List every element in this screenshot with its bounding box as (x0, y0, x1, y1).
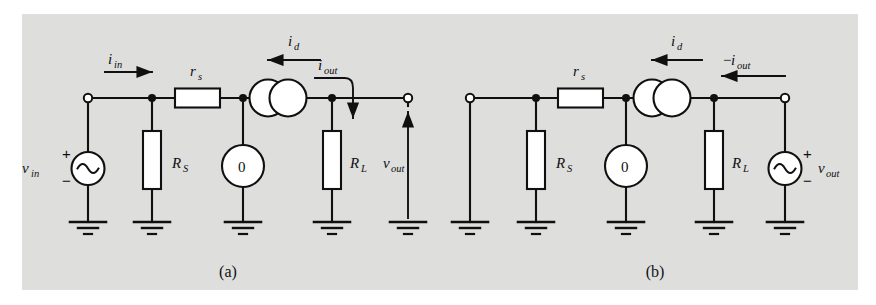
id-current-source-a (250, 80, 307, 117)
RS-sub: S (567, 163, 573, 174)
output-terminal-b (781, 94, 789, 102)
RL-base: R (349, 155, 359, 171)
RS-sub: S (183, 163, 189, 174)
RL-sub: L (360, 163, 367, 174)
rs-sub: s (581, 71, 585, 82)
RL-resistor-a (323, 131, 341, 189)
RL-sub: L (742, 163, 749, 174)
circuit-b-ground-5 (767, 222, 803, 234)
caption-b: (b) (646, 263, 665, 281)
node-dot (532, 94, 540, 102)
zero-source-value-b: 0 (621, 159, 629, 175)
label-r-s-a: r s (190, 63, 202, 82)
vout-plus-sign-b: + (803, 145, 812, 162)
label-v-in-a: v in (22, 160, 39, 179)
node-dot (239, 94, 247, 102)
id-base: i (288, 33, 292, 49)
vout-sub: out (826, 168, 841, 179)
label-i-in-a: i in (108, 51, 122, 70)
label-v-out-b: v out (818, 160, 841, 179)
node-dot (622, 94, 630, 102)
id-current-source-b (634, 80, 691, 117)
circuit-b-ground-4 (696, 222, 732, 234)
iout-base: i (731, 52, 735, 68)
node-dot (328, 94, 336, 102)
circuit-b-ground-3 (608, 222, 644, 234)
circuit-a-ground-2 (134, 222, 170, 234)
v-in-base: v (22, 160, 29, 176)
RL-resistor-b (705, 131, 723, 189)
circuit-a-ground-3 (225, 222, 261, 234)
circuit-a-ground-5 (390, 222, 426, 234)
vin-minus-sign-a: − (62, 172, 71, 189)
label-r-s-b: r s (573, 63, 585, 82)
label-i-out-a: i out (318, 57, 339, 76)
RS-base: R (171, 155, 181, 171)
RS-resistor-b (527, 131, 545, 189)
RL-base: R (731, 155, 741, 171)
RS-base: R (555, 155, 565, 171)
label-R-S-a: R S (171, 155, 189, 174)
id-base: i (671, 33, 675, 49)
rs-base: r (190, 63, 196, 79)
vout-base: v (818, 160, 825, 176)
figure-container: v in + − i in r s R S 0 i d (0, 0, 876, 305)
iout-sub: out (324, 65, 339, 76)
id-sub: d (294, 41, 300, 52)
label-i-d-b: i d (671, 33, 683, 52)
circuit-drawing-layer: v in + − i in r s R S 0 i d (0, 0, 876, 305)
circuit-b-group (452, 60, 803, 234)
iout-sub: out (737, 60, 752, 71)
vout-base: v (383, 155, 390, 171)
caption-a: (a) (219, 263, 237, 281)
circuit-a-group (70, 60, 426, 234)
circuit-b-ground-1 (452, 222, 488, 234)
label-v-out-a: v out (383, 155, 406, 174)
i-in-sub: in (114, 59, 122, 70)
input-terminal-b (466, 94, 474, 102)
vout-source-b (769, 152, 802, 185)
rs-base: r (573, 63, 579, 79)
node-dot (710, 94, 718, 102)
rs-resistor-a (175, 89, 220, 108)
vout-sub: out (391, 163, 406, 174)
v-in-sub: in (31, 168, 39, 179)
i-in-base: i (108, 51, 112, 67)
label-R-L-b: R L (731, 155, 749, 174)
vin-plus-sign-a: + (62, 145, 71, 162)
rs-sub: s (198, 71, 202, 82)
circuit-a-ground-1 (70, 222, 106, 234)
node-dot (148, 94, 156, 102)
label-i-d-a: i d (288, 33, 300, 52)
label-R-S-b: R S (555, 155, 573, 174)
label-neg-i-out-b: − i out (722, 52, 752, 71)
input-terminal-a (84, 94, 92, 102)
RS-resistor-a (143, 131, 161, 189)
vout-minus-sign-b: − (803, 172, 812, 189)
vin-source-a (72, 152, 105, 185)
id-sub: d (677, 41, 683, 52)
circuit-b-ground-2 (518, 222, 554, 234)
zero-source-value-a: 0 (238, 159, 246, 175)
rs-resistor-b (558, 89, 603, 108)
circuit-a-ground-4 (314, 222, 350, 234)
output-terminal-a (404, 94, 412, 102)
iout-base: i (318, 57, 322, 73)
label-R-L-a: R L (349, 155, 367, 174)
